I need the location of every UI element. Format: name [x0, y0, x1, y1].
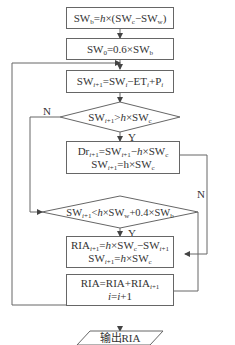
node-water-balance: SWi+1=SWi−ETi+Pi — [66, 70, 174, 93]
decision-1-text: SWi+1>h×SWc — [60, 110, 180, 124]
node-accumulate: RIA=RIA+RIAi+1 i=i+1 — [66, 274, 174, 306]
node-text: SWi+1=SWi−ETi+Pi — [77, 75, 163, 88]
node-sw0-init: SW0=0.6×SWb — [66, 38, 174, 60]
decision-2-text: SWi+1<h×SWw+0.4×SWb — [50, 205, 190, 219]
node-text: SW0=0.6×SWb — [87, 43, 153, 56]
output-text: 输出RIA — [80, 331, 160, 345]
decision-2-no-label: N — [197, 189, 205, 200]
node-text: SWb=h×(SWc−SWw) — [74, 12, 167, 25]
node-drainage: Dri+1=SWi+1−h×SWc SWi+1=h×SWc — [66, 141, 180, 174]
node-irrigation: RIAi+1=h×SWc−SWi+1 SWi+1=h×SWc — [66, 236, 174, 268]
node-swb-formula: SWb=h×(SWc−SWw) — [66, 7, 174, 29]
decision-1-no-label: N — [43, 106, 51, 117]
